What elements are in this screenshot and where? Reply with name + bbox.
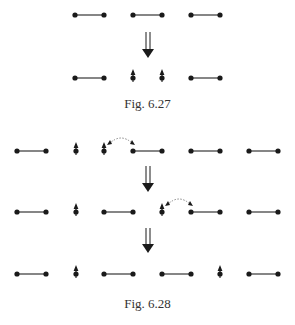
- site-dot: [43, 271, 48, 276]
- site-dot: [101, 209, 106, 214]
- hop-arrowhead-icon: [188, 201, 193, 206]
- spin-up-arrow-icon: [74, 265, 79, 271]
- site-dot: [159, 271, 164, 276]
- site-dot: [14, 148, 19, 153]
- site-dot: [275, 148, 280, 153]
- hop-arc-dashed: [109, 138, 133, 144]
- site-dot: [246, 209, 251, 214]
- site-dot: [159, 148, 164, 153]
- site-dot: [130, 12, 135, 17]
- down-arrow-icon: [142, 49, 154, 58]
- site-dot: [43, 148, 48, 153]
- site-dot: [188, 271, 193, 276]
- site-dot: [217, 12, 222, 17]
- site-dot: [72, 12, 77, 17]
- hop-arrowhead-icon: [107, 140, 112, 145]
- site-dot: [43, 209, 48, 214]
- site-dot: [188, 75, 193, 80]
- figure-caption-6-28: Fig. 6.28: [0, 296, 295, 312]
- site-dot: [101, 271, 106, 276]
- spin-up-arrow-icon: [74, 203, 79, 209]
- figure-caption-6-27: Fig. 6.27: [0, 96, 295, 112]
- site-dot: [14, 271, 19, 276]
- down-arrow-icon: [142, 244, 154, 253]
- site-dot: [101, 75, 106, 80]
- spin-up-arrow-icon: [218, 265, 223, 271]
- site-dot: [14, 209, 19, 214]
- hop-arrowhead-icon: [130, 140, 135, 145]
- hop-arrowhead-icon: [165, 201, 170, 206]
- spin-up-arrow-icon: [160, 203, 165, 209]
- site-dot: [188, 209, 193, 214]
- site-dot: [101, 12, 106, 17]
- site-dot: [275, 209, 280, 214]
- site-dot: [275, 271, 280, 276]
- site-dot: [130, 271, 135, 276]
- site-dot: [246, 271, 251, 276]
- site-dot: [130, 209, 135, 214]
- spin-up-arrow-icon: [102, 142, 107, 148]
- spin-up-arrow-icon: [131, 69, 136, 75]
- site-dot: [72, 75, 77, 80]
- site-dot: [159, 12, 164, 17]
- site-dot: [188, 148, 193, 153]
- site-dot: [217, 209, 222, 214]
- site-dot: [188, 12, 193, 17]
- site-dot: [246, 148, 251, 153]
- spin-up-arrow-icon: [160, 69, 165, 75]
- site-dot: [130, 148, 135, 153]
- spin-up-arrow-icon: [74, 142, 79, 148]
- site-dot: [217, 75, 222, 80]
- spin-chain-diagram: [0, 0, 295, 325]
- hop-arc-dashed: [167, 199, 191, 205]
- down-arrow-icon: [142, 183, 154, 192]
- site-dot: [217, 148, 222, 153]
